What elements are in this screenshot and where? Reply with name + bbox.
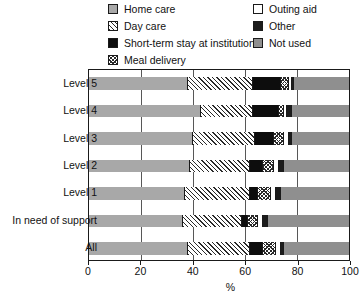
y-axis-label-5: In need of support [0,214,97,226]
legend-item-label: Other [269,21,295,32]
bar-segment-home[interactable] [89,77,188,90]
day-swatch-icon [108,21,118,31]
y-axis-label-2: Level 3 [0,132,97,144]
bar-segment-notused[interactable] [284,160,349,173]
legend-item-short[interactable]: Short-term stay at institution [108,36,255,50]
bar-segment-day[interactable] [185,187,250,200]
bar-segment-notused[interactable] [268,215,349,228]
x-tick-label-100: 100 [341,265,359,277]
legend-item-home[interactable]: Home care [108,2,255,16]
bar-segment-home[interactable] [89,160,190,173]
bar-segment-day[interactable] [188,242,250,255]
bar-segment-notused[interactable] [294,77,349,90]
bar-segment-meal[interactable] [274,132,284,145]
bar-segment-home[interactable] [89,132,193,145]
bar-row [89,105,349,118]
bar-row [89,215,349,228]
bar-segment-short[interactable] [250,160,263,173]
x-tick-label-60: 60 [239,265,251,277]
bar-row [89,77,349,90]
stacked-bar-chart: Home careDay careShort-term stay at inst… [0,0,363,301]
bar-segment-day[interactable] [183,215,243,228]
bar-row [89,132,349,145]
x-axis-title: % [0,281,363,293]
bar-segment-meal[interactable] [263,160,273,173]
stacked-bar[interactable] [89,105,349,118]
legend-item-label: Not used [269,38,311,49]
legend-item-label: Outing aid [269,4,317,15]
legend-item-outing[interactable]: Outing aid [253,2,317,16]
bar-segment-meal[interactable] [281,77,289,90]
chart-legend: Home careDay careShort-term stay at inst… [0,0,363,62]
x-tick-label-40: 40 [187,265,199,277]
bar-segment-short[interactable] [255,132,273,145]
bar-segment-home[interactable] [89,215,183,228]
bar-segment-day[interactable] [188,77,253,90]
bar-segment-home[interactable] [89,242,188,255]
x-axis-tick-labels: 020406080100 [0,265,363,281]
legend-item-label: Day care [124,21,166,32]
bar-segment-short[interactable] [250,187,258,200]
bar-segment-short[interactable] [250,242,263,255]
legend-item-day[interactable]: Day care [108,19,255,33]
legend-item-notused[interactable]: Not used [253,36,317,50]
bar-segment-notused[interactable] [284,242,349,255]
bar-segment-meal[interactable] [258,187,271,200]
y-axis-label-1: Level 4 [0,104,97,116]
other-swatch-icon [253,21,263,31]
home-swatch-icon [108,4,118,14]
bar-segment-day[interactable] [193,132,255,145]
bar-segment-short[interactable] [253,105,279,118]
x-axis-title-text: % [226,281,235,293]
stacked-bar[interactable] [89,187,349,200]
legend-item-other[interactable]: Other [253,19,317,33]
short-swatch-icon [108,38,118,48]
bar-segment-home[interactable] [89,105,201,118]
y-axis-label-3: Level 2 [0,159,97,171]
stacked-bar[interactable] [89,160,349,173]
legend-column-left: Home careDay careShort-term stay at inst… [108,2,255,70]
bar-segment-short[interactable] [253,77,282,90]
y-axis-label-6: All [0,241,97,253]
bar-segment-notused[interactable] [292,105,349,118]
legend-item-label: Home care [124,4,175,15]
bar-segment-meal[interactable] [263,242,276,255]
bar-segment-day[interactable] [190,160,250,173]
plot-axes [88,69,350,261]
stacked-bar[interactable] [89,132,349,145]
bar-row [89,187,349,200]
bar-segment-home[interactable] [89,187,185,200]
x-tick-label-0: 0 [85,265,91,277]
outing-swatch-icon [253,4,263,14]
bar-row [89,242,349,255]
plot-area-wrapper: Level 5Level 4Level 3Level 2Level 1In ne… [0,62,363,301]
y-axis-label-0: Level 5 [0,77,97,89]
stacked-bar[interactable] [89,215,349,228]
x-tick-label-20: 20 [135,265,147,277]
y-axis-label-4: Level 1 [0,186,97,198]
bar-segment-notused[interactable] [281,187,349,200]
bar-segment-day[interactable] [201,105,253,118]
notused-swatch-icon [253,38,263,48]
bar-segment-notused[interactable] [292,132,349,145]
legend-item-label: Short-term stay at institution [124,38,255,49]
bar-segment-meal[interactable] [248,215,258,228]
stacked-bar[interactable] [89,77,349,90]
stacked-bar[interactable] [89,242,349,255]
legend-column-right: Outing aidOtherNot used [253,2,317,53]
bar-row [89,160,349,173]
bar-rows [89,70,349,260]
x-tick-label-80: 80 [292,265,304,277]
